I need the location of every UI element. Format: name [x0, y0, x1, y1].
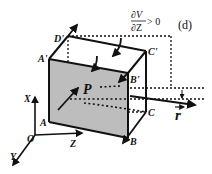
cube-diagram: D' A' C' B' A B C P r X O Z Y ∂V ∂Z > 0 … — [0, 0, 212, 174]
axis-label-z: Z — [69, 138, 76, 149]
vertex-label-d-prime: D' — [53, 33, 64, 44]
vertex-label-b-prime: B' — [129, 74, 140, 85]
point-label-p: P — [83, 82, 92, 97]
vertex-label-c-prime: C' — [148, 46, 158, 57]
vertex-label-a: A — [39, 117, 47, 128]
derivative-condition: ∂V ∂Z > 0 — [131, 9, 160, 33]
derivative-numerator: ∂V — [131, 9, 144, 20]
vertex-label-a-prime: A' — [37, 53, 48, 64]
panel-label: (d) — [178, 18, 192, 32]
vector-label-r: r — [175, 107, 181, 123]
axis-label-x: X — [23, 93, 31, 104]
origin-label-o: O — [27, 133, 34, 144]
vertex-label-b: B — [129, 136, 137, 147]
derivative-relation: > 0 — [147, 16, 160, 27]
vertex-label-c: C — [148, 107, 155, 118]
axis-label-y: Y — [10, 151, 17, 162]
r-vector-arrow — [130, 96, 195, 105]
derivative-denominator: ∂Z — [131, 22, 142, 33]
